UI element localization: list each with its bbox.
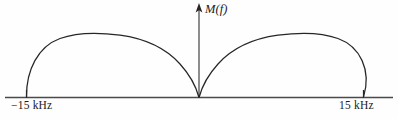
magnitude-axis-label: M(f) (205, 2, 228, 17)
spectrum-figure: M(f) −15 kHz 15 kHz (0, 0, 398, 119)
tick-label-positive-15khz: 15 kHz (339, 99, 374, 111)
tick-label-negative-15khz: −15 kHz (11, 99, 52, 111)
positive-frequency-lobe-curve (199, 33, 366, 97)
negative-frequency-lobe-curve (26, 33, 198, 97)
